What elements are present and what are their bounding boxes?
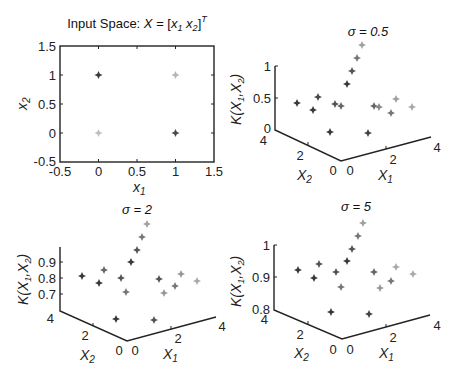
svg-text:0: 0 [49,126,56,141]
x2-axis-label: X2 [296,167,312,185]
x1-axis-label: X1 [162,346,178,364]
tick-marks [60,46,214,162]
3d-axes [60,247,216,341]
svg-text:2: 2 [296,327,303,342]
panel-title: σ = 5 [341,199,372,214]
svg-text:0: 0 [346,342,353,357]
svg-text:4: 4 [433,140,440,155]
panel-title: Input Space: X = [x1 x2]T [67,14,208,33]
svg-text:4: 4 [218,319,225,334]
svg-text:0.5: 0.5 [128,164,146,179]
svg-text:1: 1 [263,238,270,253]
svg-text:0: 0 [346,163,353,178]
y-tick-labels: 1.5 1 0.5 0 -0.5 [34,39,56,169]
point-marker [95,71,103,79]
svg-text:0.7: 0.7 [38,287,56,302]
svg-text:0.5: 0.5 [38,97,56,112]
3d-axes [275,66,431,161]
data-points [294,219,417,318]
data-points [78,220,201,324]
svg-text:1: 1 [49,68,56,83]
svg-text:0: 0 [115,343,122,358]
svg-text:0.9: 0.9 [252,270,270,285]
z-axis-label: K(X1,X2) [228,74,246,125]
x2-axis-label: X2 [293,345,309,363]
svg-text:0.8: 0.8 [38,271,56,286]
svg-text:-0.5: -0.5 [49,164,71,179]
svg-text:2: 2 [81,328,88,343]
x-axis-label: x1 [132,179,146,197]
panel-sigma-0-5: σ = 0.5 1 0.5 0 4 2 0 0 2 4 X2 X1 K(X1,X… [228,24,441,185]
panel-sigma-2: σ = 2 0.9 0.8 0.7 4 2 0 0 2 4 X2 X1 K(X1… [15,202,226,365]
svg-text:0: 0 [329,163,336,178]
x-tick-labels: -0.5 0 0.5 1 1.5 [49,164,223,179]
svg-text:1.5: 1.5 [205,164,223,179]
x1-axis-label: X1 [378,345,394,363]
point-marker [172,129,180,137]
z-axis-label: K(X1,X2) [15,254,33,305]
svg-text:0.5: 0.5 [253,91,271,106]
z-axis-label: K(X1,X2) [228,256,246,307]
svg-text:2: 2 [174,331,181,346]
panel-input-space: Input Space: X = [x1 x2]T 1.5 1 0.5 0 -0… [14,14,223,197]
panel-title: σ = 2 [122,202,153,217]
3d-axes [274,245,430,339]
svg-text:2: 2 [296,148,303,163]
panel-title: σ = 0.5 [348,24,389,39]
plot-area [60,46,214,162]
svg-text:1.5: 1.5 [38,39,56,54]
x2-axis-label: X2 [79,347,95,365]
svg-text:4: 4 [433,318,440,333]
svg-text:4: 4 [260,133,267,148]
x1-axis-label: X1 [377,167,393,185]
svg-text:1: 1 [172,164,179,179]
data-points [293,41,416,137]
svg-text:1: 1 [264,59,271,74]
point-marker [95,129,103,137]
svg-text:0: 0 [329,342,336,357]
svg-text:4: 4 [47,311,54,326]
svg-text:0: 0 [131,343,138,358]
svg-text:2: 2 [389,330,396,345]
svg-text:2: 2 [389,152,396,167]
y-axis-label: x2 [14,97,32,111]
svg-text:4: 4 [261,312,268,327]
data-points [95,71,180,137]
point-marker [172,71,180,79]
svg-text:0.9: 0.9 [38,255,56,270]
panel-sigma-5: σ = 5 1 0.9 0.8 4 2 0 0 2 4 X2 X1 K(X1,X… [228,199,441,363]
figure: Input Space: X = [x1 x2]T 1.5 1 0.5 0 -0… [0,0,455,380]
svg-text:0: 0 [95,164,102,179]
